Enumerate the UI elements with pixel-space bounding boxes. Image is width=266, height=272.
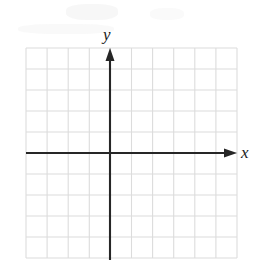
x-axis-arrowhead <box>224 149 237 158</box>
coordinate-grid-figure: y x <box>0 0 266 272</box>
y-axis-label: y <box>103 26 111 43</box>
x-axis-label: x <box>241 144 249 161</box>
coordinate-plane-svg <box>0 0 266 272</box>
y-axis-arrowhead <box>106 48 115 61</box>
